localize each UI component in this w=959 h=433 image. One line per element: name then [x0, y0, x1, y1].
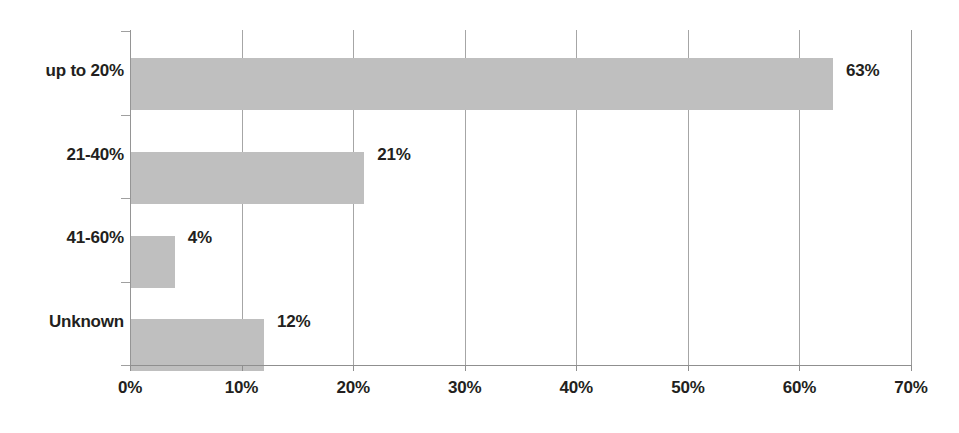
gridline-70 — [911, 30, 912, 365]
x-tick-0 — [130, 365, 131, 371]
x-tick-label-6: 60% — [783, 378, 816, 398]
x-tick-label-1: 10% — [225, 378, 258, 398]
y-tick-2 — [121, 198, 130, 199]
y-tick-0 — [121, 31, 130, 32]
bar-chart: up to 20% 21-40% 41-60% Unknown 63% 21% … — [0, 0, 959, 433]
x-tick-70 — [911, 365, 912, 371]
value-label-2: 4% — [188, 228, 212, 248]
category-label-3: Unknown — [49, 312, 124, 332]
x-tick-20 — [353, 365, 354, 371]
value-label-0: 63% — [846, 61, 879, 81]
x-tick-60 — [799, 365, 800, 371]
y-tick-1 — [121, 115, 130, 116]
bar-unknown — [130, 319, 264, 371]
x-tick-10 — [242, 365, 243, 371]
x-tick-label-3: 30% — [448, 378, 481, 398]
x-tick-label-0: 0% — [118, 378, 142, 398]
category-label-2: 41-60% — [67, 228, 124, 248]
category-label-0: up to 20% — [46, 61, 125, 81]
x-tick-label-2: 20% — [336, 378, 369, 398]
value-label-1: 21% — [377, 145, 410, 165]
y-tick-3 — [121, 282, 130, 283]
x-tick-label-5: 50% — [671, 378, 704, 398]
x-tick-label-4: 40% — [560, 378, 593, 398]
x-axis-line — [130, 365, 912, 366]
plot-area — [130, 30, 911, 365]
x-tick-label-7: 70% — [894, 378, 927, 398]
y-axis-line — [130, 30, 131, 366]
y-tick-4 — [121, 365, 130, 366]
x-tick-40 — [576, 365, 577, 371]
bar-41-60 — [130, 236, 175, 288]
bar-up-to-20 — [130, 58, 833, 110]
bar-21-40 — [130, 152, 364, 204]
category-label-1: 21-40% — [67, 145, 124, 165]
x-tick-30 — [465, 365, 466, 371]
value-label-3: 12% — [277, 312, 310, 332]
x-tick-50 — [688, 365, 689, 371]
